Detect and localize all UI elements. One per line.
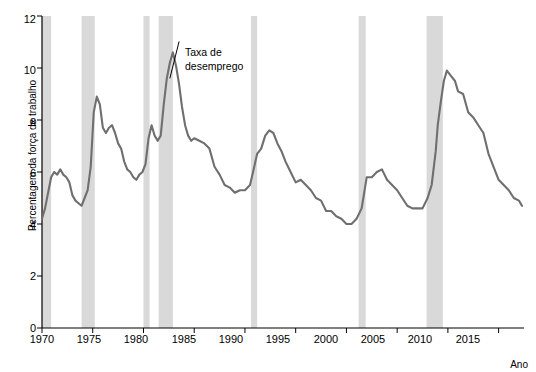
recession-band [42, 16, 51, 328]
x-tick-label: 2000 [306, 333, 346, 345]
y-tick-label: 12 [12, 13, 36, 25]
chart-container: Percentagem da força de trabalho Ano 0 2… [0, 0, 536, 372]
x-tick-label: 1995 [258, 333, 298, 345]
recession-band [359, 16, 366, 328]
series-line [42, 52, 522, 224]
y-axis-title: Percentagem da força de trabalho [27, 46, 38, 266]
x-tick-label: 1970 [22, 333, 62, 345]
recession-band [82, 16, 95, 328]
y-tick-label: 8 [18, 116, 36, 128]
x-axis-title: Ano [510, 359, 528, 370]
x-tick-label: 1975 [69, 333, 109, 345]
y-tick-label: 2 [18, 270, 36, 282]
recession-band [143, 16, 149, 328]
plot-area [0, 0, 536, 372]
x-tick-label: 1985 [164, 333, 204, 345]
series-lines [42, 52, 522, 224]
axis-lines [37, 16, 524, 333]
x-tick-label: 1980 [116, 333, 156, 345]
y-tick-label: 6 [18, 167, 36, 179]
x-tick-label: 2005 [353, 333, 393, 345]
annotation-label-line2: desemprego [185, 60, 243, 72]
x-tick-label: 1990 [211, 333, 251, 345]
recession-band [427, 16, 443, 328]
y-tick-label: 10 [12, 64, 36, 76]
y-tick-label: 4 [18, 219, 36, 231]
x-tick-label: 2010 [400, 333, 440, 345]
x-tick-label: 2015 [448, 333, 488, 345]
annotation-label-line1: Taxa de [185, 46, 222, 58]
